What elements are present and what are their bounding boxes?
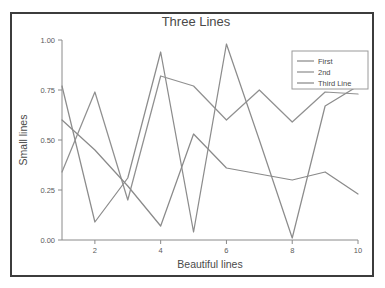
- legend-label-0: First: [318, 57, 333, 66]
- x-tick-label: 2: [93, 246, 97, 255]
- legend-label-1: 2nd: [318, 68, 331, 77]
- y-tick-label: 0.75: [40, 86, 55, 95]
- x-axis-label: Beautiful lines: [177, 258, 242, 270]
- y-tick-label: 1.00: [40, 36, 55, 45]
- x-tick-label: 6: [224, 246, 228, 255]
- y-axis-label: Small lines: [17, 115, 29, 166]
- x-axis-ticks: 246810: [93, 240, 362, 255]
- y-tick-label: 0.50: [40, 136, 55, 145]
- x-tick-label: 8: [290, 246, 294, 255]
- y-tick-label: 0.00: [40, 236, 55, 245]
- chart-legend: First2ndThird Line: [292, 51, 368, 89]
- figure-container: Three Lines 0.000.250.500.751.00 246810 …: [0, 0, 385, 288]
- legend-label-2: Third Line: [318, 79, 351, 88]
- y-axis-ticks: 0.000.250.500.751.00: [40, 36, 62, 245]
- x-tick-label: 4: [159, 246, 163, 255]
- x-tick-label: 10: [354, 246, 362, 255]
- chart-title: Three Lines: [162, 14, 231, 29]
- y-tick-label: 0.25: [40, 186, 55, 195]
- line-chart: Three Lines 0.000.250.500.751.00 246810 …: [0, 0, 385, 288]
